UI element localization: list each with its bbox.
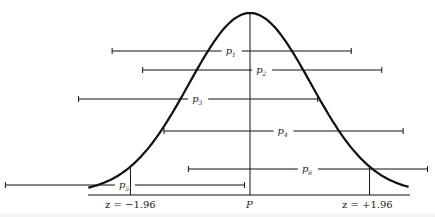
interval-subscript: 5 — [125, 185, 129, 192]
normal-curve-diagram: p1p2p3p4p6p5 z = −1.96 P z = +1.96 — [0, 0, 435, 217]
interval-label: p6 — [302, 163, 312, 176]
interval-label: p3 — [192, 93, 202, 106]
interval-p6: p6 — [188, 163, 427, 176]
interval-p5: p5 — [5, 179, 244, 192]
cropped-caption — [0, 211, 435, 217]
interval-subscript: 3 — [199, 99, 203, 106]
interval-subscript: 6 — [308, 169, 312, 176]
normal-curve — [88, 13, 408, 188]
confidence-intervals: p1p2p3p4p6p5 — [5, 45, 427, 192]
interval-subscript: 2 — [262, 70, 267, 77]
interval-label: p4 — [278, 125, 288, 138]
interval-label: p2 — [256, 64, 266, 77]
interval-label: p5 — [119, 179, 129, 192]
interval-p3: p3 — [79, 93, 318, 106]
right-cutoff-label: z = +1.96 — [342, 199, 393, 210]
interval-p2: p2 — [143, 64, 382, 77]
interval-subscript: 4 — [283, 131, 288, 138]
left-cutoff-label: z = −1.96 — [105, 199, 156, 210]
interval-subscript: 1 — [232, 51, 236, 58]
center-label-P: P — [245, 199, 253, 210]
interval-p1: p1 — [112, 45, 351, 58]
interval-label: p1 — [226, 45, 236, 58]
interval-p4: p4 — [164, 125, 403, 138]
